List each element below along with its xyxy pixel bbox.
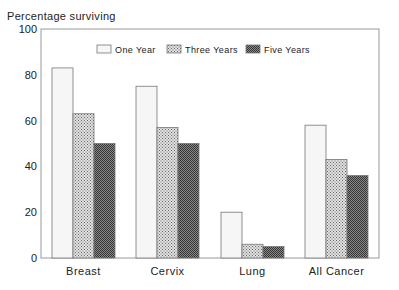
bar [157, 127, 178, 258]
bar [263, 247, 284, 258]
y-tick-label: 20 [25, 206, 37, 218]
legend-swatch [167, 45, 181, 53]
legend-label: One Year [115, 45, 156, 55]
bar-chart: 020406080100 BreastCervixLungAll Cancer … [0, 0, 399, 290]
bars: BreastCervixLungAll Cancer [52, 68, 368, 277]
legend-swatch [97, 45, 111, 53]
legend: One YearThree YearsFive Years [97, 45, 310, 55]
bar [136, 86, 157, 258]
bar [73, 114, 94, 258]
y-tick-label: 40 [25, 160, 37, 172]
y-tick-label: 0 [31, 252, 37, 264]
y-tick-label: 80 [25, 69, 37, 81]
bar [178, 144, 199, 259]
bar [52, 68, 73, 258]
bar [94, 144, 115, 259]
legend-label: Three Years [185, 45, 238, 55]
x-tick-label: All Cancer [309, 265, 365, 277]
y-tick-label: 60 [25, 115, 37, 127]
bar [305, 125, 326, 258]
bar [347, 176, 368, 258]
bar [326, 160, 347, 258]
legend-label: Five Years [264, 45, 310, 55]
legend-swatch [246, 45, 260, 53]
x-tick-label: Breast [66, 265, 101, 277]
x-tick-label: Lung [239, 265, 265, 277]
bar [221, 212, 242, 258]
bar [242, 244, 263, 258]
y-tick-label: 100 [19, 23, 37, 35]
x-tick-label: Cervix [150, 265, 184, 277]
